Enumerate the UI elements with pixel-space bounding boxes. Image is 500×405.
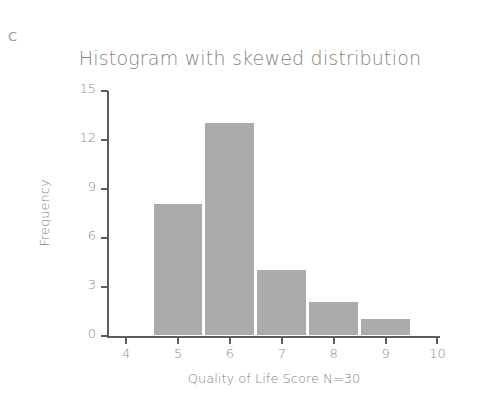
y-tick-label: 12 (79, 130, 96, 145)
y-tick: 9 (101, 188, 108, 190)
y-axis-line (107, 91, 109, 337)
chart-title: Histogram with skewed distribution (0, 47, 500, 69)
y-tick-label: 9 (88, 179, 96, 194)
x-tick-label: 7 (278, 346, 286, 361)
y-tick: 0 (101, 335, 108, 337)
x-tick-label: 6 (226, 346, 234, 361)
x-tick (125, 337, 127, 344)
y-tick-label: 15 (79, 81, 96, 96)
x-tick (333, 337, 335, 344)
x-tick-label: 8 (330, 346, 338, 361)
x-axis-line (107, 336, 440, 338)
x-tick (281, 337, 283, 344)
x-tick (436, 337, 438, 344)
y-tick: 15 (101, 90, 108, 92)
x-axis-title: Quality of Life Score N=30 (108, 371, 440, 386)
histogram-bar (154, 204, 203, 335)
histogram-bar (205, 123, 254, 335)
x-tick (385, 337, 387, 344)
y-tick: 3 (101, 286, 108, 288)
y-tick-label: 6 (88, 228, 96, 243)
y-tick: 12 (101, 139, 108, 141)
plot-area: 03691215 45678910 (108, 91, 440, 336)
y-tick-label: 3 (88, 277, 96, 292)
x-tick (229, 337, 231, 344)
y-tick: 6 (101, 237, 108, 239)
x-tick-label: 9 (381, 346, 389, 361)
x-tick-label: 4 (122, 346, 130, 361)
y-axis-title: Frequency (37, 179, 52, 246)
x-tick-label: 10 (429, 346, 446, 361)
histogram-bar (257, 270, 306, 335)
panel-label: C (8, 30, 18, 43)
x-tick-label: 5 (174, 346, 182, 361)
y-tick-label: 0 (88, 326, 96, 341)
x-tick (177, 337, 179, 344)
histogram-bar (361, 319, 410, 335)
histogram-bar (309, 302, 358, 335)
histogram-figure: C Histogram with skewed distribution 036… (0, 0, 500, 405)
